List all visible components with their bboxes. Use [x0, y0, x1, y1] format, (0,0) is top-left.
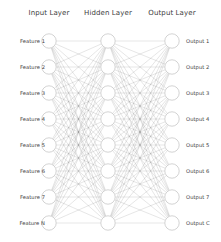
neuron-node-hidden-1[interactable] — [101, 34, 115, 48]
node-label-input-6: Feature 6 — [20, 168, 45, 174]
nodes-group — [42, 34, 179, 230]
node-label-output-1: Output 1 — [186, 38, 209, 44]
node-label-input-4: Feature 4 — [20, 116, 45, 122]
node-label-output-2: Output 2 — [186, 64, 209, 70]
node-label-output-8: Output C — [186, 220, 210, 226]
neuron-node-output-8[interactable] — [165, 216, 179, 230]
node-label-input-8: Feature N — [19, 220, 45, 226]
neuron-node-output-5[interactable] — [165, 138, 179, 152]
neuron-node-output-4[interactable] — [165, 112, 179, 126]
neuron-node-hidden-2[interactable] — [101, 60, 115, 74]
node-label-input-7: Feature 7 — [20, 194, 45, 200]
node-label-output-5: Output 5 — [186, 142, 209, 148]
neuron-node-hidden-5[interactable] — [101, 138, 115, 152]
layer-title-output: Output Layer — [148, 9, 195, 17]
neuron-node-output-6[interactable] — [165, 164, 179, 178]
node-label-output-6: Output 6 — [186, 168, 209, 174]
node-label-output-3: Output 3 — [186, 90, 209, 96]
neuron-node-output-3[interactable] — [165, 86, 179, 100]
neuron-node-hidden-7[interactable] — [101, 190, 115, 204]
neuron-node-output-2[interactable] — [165, 60, 179, 74]
neuron-node-hidden-3[interactable] — [101, 86, 115, 100]
neuron-node-hidden-6[interactable] — [101, 164, 115, 178]
neuron-node-output-1[interactable] — [165, 34, 179, 48]
neuron-node-output-7[interactable] — [165, 190, 179, 204]
node-label-output-7: Output 7 — [186, 194, 209, 200]
layer-title-input: Input Layer — [29, 9, 70, 17]
node-label-input-2: Feature 2 — [20, 64, 45, 70]
node-label-output-4: Output 4 — [186, 116, 209, 122]
neuron-node-hidden-8[interactable] — [101, 216, 115, 230]
neuron-node-hidden-4[interactable] — [101, 112, 115, 126]
neural-network-diagram: Input LayerHidden LayerOutput Layer Feat… — [0, 0, 221, 242]
node-label-input-1: Feature 1 — [20, 38, 45, 44]
layer-title-hidden: Hidden Layer — [84, 9, 132, 17]
node-label-input-3: Feature 3 — [20, 90, 45, 96]
node-label-input-5: Feature 5 — [20, 142, 45, 148]
